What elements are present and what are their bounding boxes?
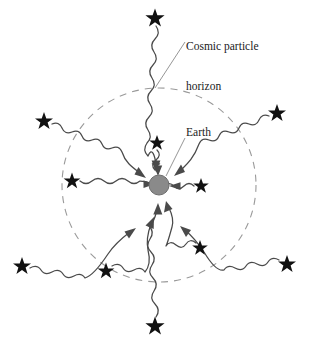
earth-dot bbox=[149, 175, 169, 195]
star-top bbox=[145, 9, 164, 27]
cosmic-particle-horizon-label: Cosmic particle horizon bbox=[186, 14, 259, 120]
star-bottom-right bbox=[278, 255, 296, 272]
photon-ray-top-right bbox=[180, 115, 269, 171]
arrowhead-ray-top-left bbox=[135, 167, 147, 178]
arrowhead-ray-lower-left bbox=[146, 217, 155, 229]
arrowhead-ray-inner-top bbox=[154, 166, 163, 177]
star-inner-right bbox=[193, 178, 209, 193]
star-top-left bbox=[35, 112, 53, 129]
star-top-right bbox=[268, 104, 286, 121]
star-bottom bbox=[145, 317, 164, 335]
photon-ray-top-left bbox=[52, 123, 140, 173]
arrowhead-ray-lower-right bbox=[164, 201, 173, 213]
horizon-label-line-1: Cosmic particle bbox=[186, 40, 259, 53]
diagram-canvas bbox=[0, 0, 311, 344]
horizon-leader-line bbox=[155, 42, 185, 88]
arrowhead-ray-top-right bbox=[174, 165, 185, 177]
arrowhead-ray-bottom-left bbox=[125, 228, 137, 239]
horizon-label-line-2: horizon bbox=[186, 80, 259, 93]
photon-ray-left bbox=[80, 179, 150, 184]
cosmic-particle-horizon-figure: Cosmic particle horizon Earth bbox=[0, 0, 311, 344]
earth-label: Earth bbox=[186, 126, 211, 139]
arrowhead-ray-bottom bbox=[153, 203, 162, 215]
star-inner-top bbox=[149, 135, 165, 150]
star-bottom-left bbox=[13, 257, 31, 274]
arrowhead-ray-bottom-right bbox=[180, 226, 191, 237]
star-left bbox=[64, 173, 81, 189]
